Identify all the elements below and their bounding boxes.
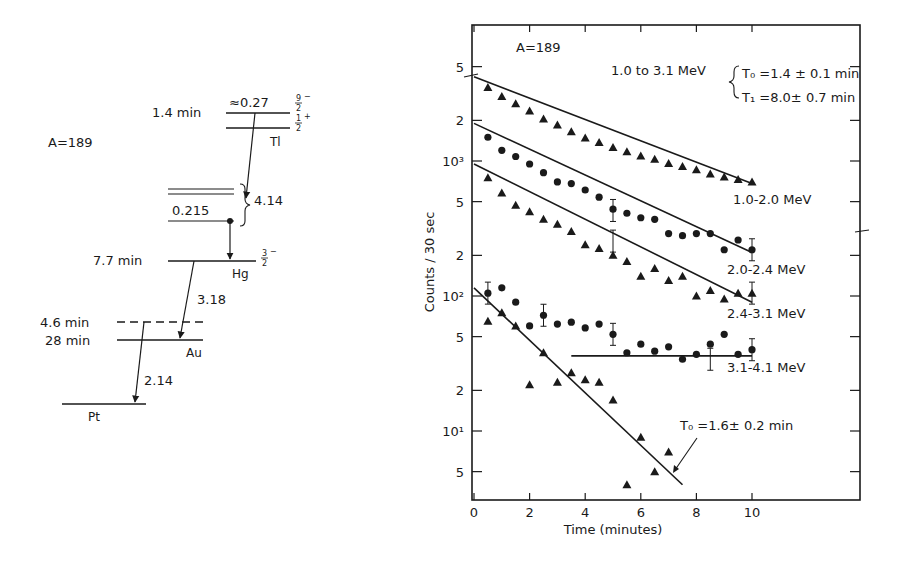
data-point: [568, 180, 575, 187]
data-point: [581, 240, 590, 248]
y-tick-label: 5: [456, 60, 464, 75]
fit-line: [474, 123, 752, 252]
data-point: [596, 194, 603, 201]
data-point: [511, 321, 520, 329]
au-level: 4.6 min 28 min Au: [40, 315, 203, 360]
data-point: [692, 165, 701, 173]
data-point: [526, 322, 533, 329]
data-point: [581, 375, 590, 383]
series-label: 1.0-2.0 MeV: [733, 192, 811, 207]
data-point: [540, 312, 547, 319]
t1-annotation: T₁ =8.0± 0.7 min: [741, 90, 855, 105]
au-element-label: Au: [186, 346, 202, 360]
data-point: [567, 368, 576, 376]
au-isomer-halflife: 4.6 min: [40, 315, 89, 330]
y-tick-label: 2: [456, 383, 464, 398]
hg-to-au-arrow: [180, 261, 194, 338]
data-point: [483, 317, 492, 325]
au-ground-halflife: 28 min: [45, 333, 90, 348]
y-tick-label: 10¹: [442, 424, 464, 439]
data-point: [636, 151, 645, 159]
data-point: [525, 380, 534, 388]
data-point: [609, 206, 616, 213]
t0-annotation: T₀ =1.4 ± 0.1 min: [741, 66, 859, 81]
data-point: [693, 351, 700, 358]
data-point: [721, 331, 728, 338]
data-point: [497, 92, 506, 100]
data-point: [483, 83, 492, 91]
data-point: [748, 346, 755, 353]
series-label: 2.4-3.1 MeV: [727, 306, 805, 321]
y-tick-label: 5: [456, 330, 464, 345]
data-point: [553, 220, 562, 228]
data-point: [497, 308, 506, 316]
tl-spin-lower: 1: [296, 114, 301, 123]
hg-element-label: Hg: [232, 267, 249, 281]
x-tick-label: 0: [470, 505, 478, 520]
y-tick-label: 5: [456, 195, 464, 210]
fit-line: [474, 288, 683, 485]
y-tick-label: 2: [456, 113, 464, 128]
data-point: [595, 244, 604, 252]
svg-text:2: 2: [296, 104, 301, 113]
x-tick-label: 2: [525, 505, 533, 520]
data-point: [622, 257, 631, 265]
plot-frame: [472, 25, 860, 500]
data-point: [692, 292, 701, 300]
data-point: [553, 378, 562, 386]
data-point: [650, 264, 659, 272]
data-point: [734, 289, 743, 297]
y-tick-label: 10³: [442, 154, 464, 169]
series-label: 3.1-4.1 MeV: [727, 360, 805, 375]
x-tick-label: 4: [581, 505, 589, 520]
au-pt-q-value: 2.14: [144, 373, 173, 388]
au-to-pt-arrow: [135, 322, 144, 402]
tl-isomer-energy: ≈0.27: [229, 95, 269, 110]
data-point: [706, 170, 715, 178]
data-point: [540, 169, 547, 176]
svg-text:+: +: [304, 112, 311, 121]
data-point: [609, 143, 618, 151]
svg-text:2: 2: [262, 259, 267, 268]
data-point: [678, 162, 687, 170]
data-point: [484, 134, 491, 141]
data-point: [748, 289, 757, 297]
pt-element-label: Pt: [88, 410, 100, 424]
data-point: [511, 99, 520, 107]
tl-level: 1.4 min ≈0.27 Tl 9 2 − 1 2 +: [152, 92, 311, 149]
data-point: [720, 173, 729, 181]
tl-to-hg-arrow: [246, 113, 255, 198]
data-point: [581, 134, 590, 142]
data-point: [636, 272, 645, 280]
x-axis-label: Time (minutes): [563, 522, 663, 537]
data-point: [665, 343, 672, 350]
hg-halflife: 7.7 min: [93, 253, 142, 268]
data-point: [622, 147, 631, 155]
mass-number-label: A=189: [48, 135, 93, 150]
data-point: [720, 295, 729, 303]
hg-level: 7.7 min Hg 3 2 −: [93, 247, 277, 281]
data-point: [596, 320, 603, 327]
data-point: [721, 246, 728, 253]
data-point: [623, 349, 630, 356]
data-point: [484, 290, 491, 297]
data-point: [651, 216, 658, 223]
data-point: [554, 178, 561, 185]
chart-title: A=189: [516, 40, 561, 55]
data-point: [582, 324, 589, 331]
data-point: [637, 214, 644, 221]
data-point: [568, 319, 575, 326]
x-tick-label: 6: [637, 505, 645, 520]
t0-high-annotation: T₀ =1.6± 0.2 min: [679, 418, 793, 433]
series-label: 2.0-2.4 MeV: [727, 262, 805, 277]
data-point: [664, 159, 673, 167]
fit-range-label: 1.0 to 3.1 MeV: [611, 63, 706, 78]
data-point: [650, 467, 659, 475]
data-point: [497, 188, 506, 196]
data-point: [622, 480, 631, 488]
data-point: [664, 447, 673, 455]
fit-line: [474, 77, 752, 184]
data-point: [707, 341, 714, 348]
data-point: [650, 155, 659, 163]
data-point: [693, 230, 700, 237]
